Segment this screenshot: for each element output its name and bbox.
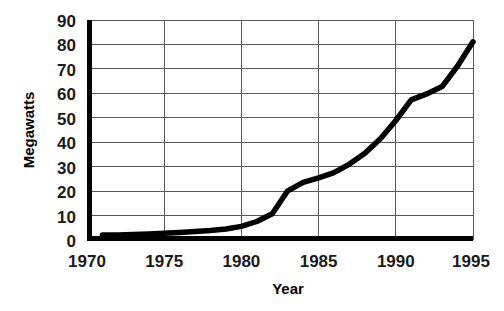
- x-tick-label: 1995: [452, 252, 490, 271]
- chart-container: 90 80 70 60 50 40 30 20 10 0: [0, 0, 504, 311]
- x-axis-tick-labels: 1970 1975 1980 1985 1990 1995: [68, 252, 490, 271]
- y-tick-label: 80: [57, 36, 76, 55]
- y-axis-title: Megawatts: [20, 92, 37, 169]
- y-tick-label: 70: [57, 61, 76, 80]
- y-tick-label: 90: [57, 12, 76, 31]
- y-tick-label: 20: [57, 183, 76, 202]
- line-chart: 90 80 70 60 50 40 30 20 10 0: [0, 0, 504, 311]
- data-series-line: [102, 42, 473, 235]
- y-tick-label: 0: [67, 232, 76, 251]
- horizontal-gridlines: [87, 44, 473, 215]
- x-tick-label: 1980: [222, 252, 260, 271]
- y-tick-label: 30: [57, 159, 76, 178]
- y-axis-tick-labels: 90 80 70 60 50 40 30 20 10 0: [57, 12, 76, 251]
- y-tick-label: 50: [57, 110, 76, 129]
- y-tick-label: 60: [57, 85, 76, 104]
- y-tick-label: 40: [57, 134, 76, 153]
- x-tick-label: 1990: [377, 252, 415, 271]
- x-tick-label: 1970: [68, 252, 106, 271]
- x-axis-title: Year: [272, 280, 304, 297]
- x-tick-label: 1985: [300, 252, 338, 271]
- x-tick-label: 1975: [145, 252, 183, 271]
- y-tick-label: 10: [57, 208, 76, 227]
